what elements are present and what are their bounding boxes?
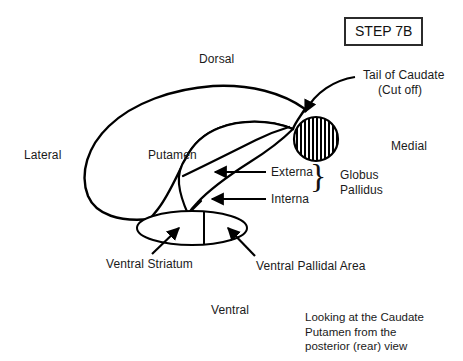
tail-of-caudate-leader-arrow xyxy=(305,77,355,112)
orientation-label-ventral: Ventral xyxy=(211,303,249,317)
label-ventral-pallidal-area: Ventral Pallidal Area xyxy=(256,259,366,273)
tail-of-caudate-hatched-circle xyxy=(294,117,338,161)
step-badge: STEP 7B xyxy=(344,17,423,46)
figure-caption: Looking at the Caudate Putamen from the … xyxy=(305,310,424,354)
caption-line-1: Looking at the Caudate xyxy=(305,310,424,325)
label-externa: Externa xyxy=(271,165,313,179)
label-ventral-striatum: Ventral Striatum xyxy=(106,257,193,271)
diagram-canvas: STEP 7B Dorsal Lateral Medial Ventral Pu… xyxy=(0,0,463,361)
label-interna: Interna xyxy=(271,192,309,206)
caption-line-3: posterior (rear) view xyxy=(305,339,424,354)
label-tail-of-caudate: Tail of Caudate xyxy=(363,68,445,82)
label-putamen: Putamen xyxy=(148,148,197,162)
orientation-label-lateral: Lateral xyxy=(24,148,61,162)
orientation-label-dorsal: Dorsal xyxy=(199,52,234,66)
caption-line-2: Putamen from the xyxy=(305,325,424,340)
label-globus: Globus xyxy=(340,168,379,182)
globus-pallidus-brace: } xyxy=(310,159,326,193)
label-pallidus: Pallidus xyxy=(340,183,383,197)
label-tail-of-caudate-note: (Cut off) xyxy=(378,83,422,97)
ventral-region-ellipse xyxy=(137,211,247,245)
orientation-label-medial: Medial xyxy=(391,139,427,153)
